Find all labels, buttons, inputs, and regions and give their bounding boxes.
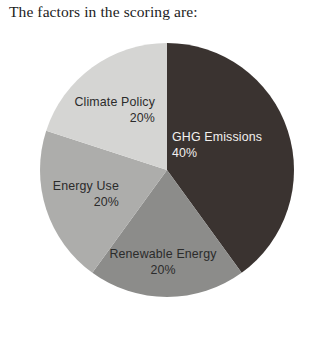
label-renewable-energy-name: Renewable Energy: [109, 247, 217, 261]
label-energy-use-name: Energy Use: [53, 179, 119, 193]
pie-chart-svg: GHG Emissions 40% Renewable Energy 20% E…: [0, 0, 330, 341]
page-root: The factors in the scoring are: GHG Emis…: [0, 0, 330, 341]
label-energy-use-value: 20%: [94, 195, 119, 209]
pie-chart: GHG Emissions 40% Renewable Energy 20% E…: [0, 0, 330, 341]
label-ghg-emissions-value: 40%: [172, 146, 197, 160]
label-renewable-energy-value: 20%: [150, 263, 175, 277]
label-climate-policy-value: 20%: [130, 111, 155, 125]
label-climate-policy-name: Climate Policy: [74, 95, 155, 109]
label-ghg-emissions-name: GHG Emissions: [172, 130, 262, 144]
